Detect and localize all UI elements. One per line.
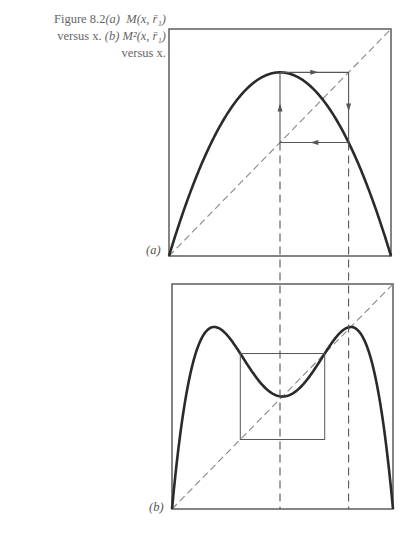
figure-canvas [0, 0, 414, 542]
connector-lines [280, 143, 349, 510]
panel-b-plot [172, 284, 393, 509]
arrow-up-icon [278, 103, 283, 111]
function-curve [172, 327, 393, 509]
arrow-right-icon [310, 70, 318, 75]
arrow-down-icon [346, 103, 351, 111]
arrow-left-icon [310, 140, 318, 145]
